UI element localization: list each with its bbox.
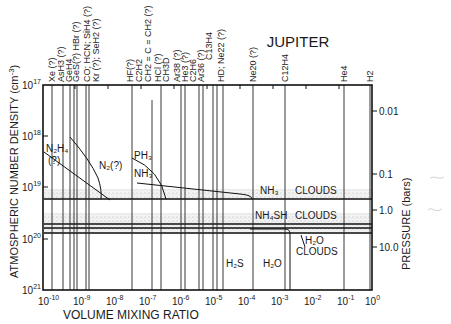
svg-text:10-5: 10-5 xyxy=(205,294,222,307)
nh3-clouds-label: CLOUDS xyxy=(295,185,337,196)
svg-text:10-2: 10-2 xyxy=(304,294,321,307)
svg-text:Kr (?); SeH2 (?): Kr (?); SeH2 (?) xyxy=(91,18,101,82)
curve-labels: N₂H₄ (?) N₂(?) PH₃ NH₃ NH₃ CLOUDS NH₄SH … xyxy=(46,143,338,269)
svg-text:GeS(?) HBr (?): GeS(?) HBr (?) xyxy=(71,21,81,82)
svg-text:C12H4: C12H4 xyxy=(280,54,290,82)
ph3-label: PH₃ xyxy=(134,150,152,161)
svg-text:10-1: 10-1 xyxy=(337,294,354,307)
x-axis-label: VOLUME MIXING RATIO xyxy=(63,308,199,322)
svg-text:CH3D: CH3D xyxy=(161,57,171,82)
h2o-clouds-label: CLOUDS xyxy=(296,246,338,257)
nh4sh-clouds-label: CLOUDS xyxy=(295,210,337,221)
y-axis-label-right: PRESSURE (bars) xyxy=(400,178,412,270)
svg-text:10-3: 10-3 xyxy=(271,294,288,307)
nh4sh-label: NH₄SH xyxy=(255,210,287,221)
h2s-label: H₂S xyxy=(226,258,244,269)
y-tick-labels: 1017 1018 1019 1020 1021 xyxy=(22,78,41,296)
svg-text:0.01: 0.01 xyxy=(379,106,399,117)
svg-text:0.1: 0.1 xyxy=(379,169,393,180)
nh3-label: NH₃ xyxy=(134,168,153,179)
jupiter-abundance-chart: JUPITER ATMOSPHERIC NUMBER DENSITY (cm-3… xyxy=(0,0,451,324)
n2h4-q-label: (?) xyxy=(48,155,60,166)
svg-text:H2: H2 xyxy=(365,70,375,82)
svg-text:Ne20 (?): Ne20 (?) xyxy=(248,47,258,82)
svg-text:CH2 = C = CH2 (?): CH2 = C = CH2 (?) xyxy=(143,5,153,82)
h2o-cloud-species: H₂O xyxy=(305,235,324,246)
chart-title: JUPITER xyxy=(267,33,330,50)
svg-text:1021: 1021 xyxy=(22,283,41,296)
x-tick-labels: 10-10 10-9 10-8 10-7 10-6 10-5 10-4 10-3… xyxy=(38,294,380,307)
svg-text:1018: 1018 xyxy=(22,129,41,142)
svg-text:10-6: 10-6 xyxy=(172,294,189,307)
y-axis-label-left: ATMOSPHERIC NUMBER DENSITY (cm-3) xyxy=(7,65,20,278)
pressure-tick-labels: 0.01 0.1 1.0 10.0 xyxy=(379,106,399,253)
svg-text:1020: 1020 xyxy=(22,232,41,245)
svg-text:10-4: 10-4 xyxy=(238,294,255,307)
nh3-cloud-species: NH₃ xyxy=(260,185,279,196)
n2h4-label: N₂H₄ xyxy=(46,143,68,154)
svg-text:100: 100 xyxy=(365,294,380,307)
svg-text:1019: 1019 xyxy=(22,180,41,193)
margin-pencil-marks xyxy=(428,177,444,211)
svg-text:C13H4: C13H4 xyxy=(204,32,214,60)
h2o-label: H₂O xyxy=(263,258,282,269)
svg-text:HD; Ne22 (?): HD; Ne22 (?) xyxy=(216,29,226,82)
svg-text:10.0: 10.0 xyxy=(379,242,399,253)
svg-text:1017: 1017 xyxy=(22,78,41,91)
n2-label: N₂(?) xyxy=(99,160,122,171)
svg-text:10-7: 10-7 xyxy=(139,294,156,307)
svg-text:10-8: 10-8 xyxy=(106,294,123,307)
svg-text:10-10: 10-10 xyxy=(38,294,59,307)
svg-text:10-9: 10-9 xyxy=(73,294,90,307)
svg-text:1.0: 1.0 xyxy=(379,205,393,216)
svg-text:He4: He4 xyxy=(339,65,349,82)
